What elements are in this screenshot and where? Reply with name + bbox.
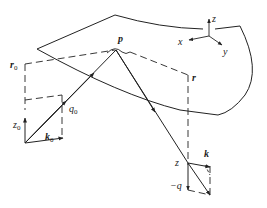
label-z0: z0 bbox=[12, 119, 21, 132]
label-k0: k0 bbox=[45, 131, 54, 144]
label-r0: r0 bbox=[10, 59, 18, 72]
axes-icon bbox=[189, 19, 222, 45]
label-p: p bbox=[117, 33, 123, 44]
reflection-point-bump bbox=[107, 49, 130, 54]
axis-x-label: x bbox=[177, 36, 183, 47]
label-minus-q: −q bbox=[170, 180, 182, 191]
dashed-guides bbox=[25, 50, 210, 195]
label-k: k bbox=[204, 148, 209, 159]
axis-z-label: z bbox=[211, 13, 216, 24]
scattering-diagram: z x y p r0 r q0 bbox=[0, 0, 267, 208]
incident-ray bbox=[25, 50, 116, 143]
incident-components bbox=[25, 118, 63, 143]
label-r: r bbox=[192, 72, 196, 83]
surface-outline bbox=[37, 15, 252, 115]
label-q0: q0 bbox=[69, 103, 78, 116]
axis-y-label: y bbox=[222, 46, 228, 57]
label-z: z bbox=[174, 157, 179, 168]
